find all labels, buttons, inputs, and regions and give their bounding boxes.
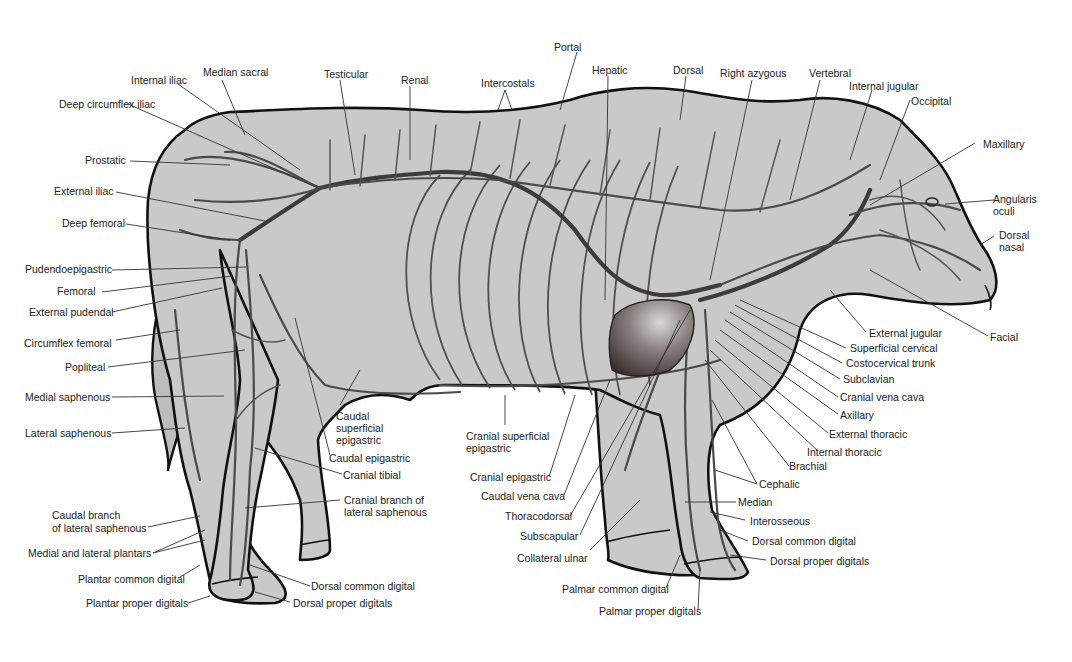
label-pudendoepigastric: Pudendoepigastric — [25, 263, 112, 276]
label-testicular: Testicular — [324, 68, 368, 81]
label-superficial-cervical: Superficial cervical — [850, 342, 938, 355]
label-median: Median — [738, 496, 772, 509]
label-axillary: Axillary — [840, 409, 874, 422]
label-dorsal-proper-digitals-fore: Dorsal proper digitals — [770, 555, 869, 568]
label-collateral-ulnar: Collateral ulnar — [517, 552, 588, 565]
label-costocervical-trunk: Costocervical trunk — [846, 357, 935, 370]
label-deep-circumflex-iliac: Deep circumflex iliac — [59, 98, 155, 111]
label-brachial: Brachial — [789, 460, 827, 473]
label-popliteal: Popliteal — [65, 361, 105, 374]
label-deep-femoral: Deep femoral — [62, 217, 125, 230]
label-dorsal-proper-digitals-hind: Dorsal proper digitals — [293, 597, 392, 610]
label-internal-jugular: Internal jugular — [849, 80, 918, 93]
label-femoral: Femoral — [57, 285, 96, 298]
label-angularis-oculi-2: oculi — [993, 205, 1015, 218]
label-cranial-vena-cava: Cranial vena cava — [840, 391, 924, 404]
label-cranial-tibial: Cranial tibial — [343, 469, 401, 482]
label-external-thoracic: External thoracic — [829, 428, 907, 441]
label-portal: Portal — [554, 41, 581, 54]
label-cranial-superficial-epigastric-1: Cranial superficial — [466, 430, 549, 443]
label-external-jugular: External jugular — [869, 327, 942, 340]
label-external-iliac: External iliac — [54, 185, 114, 198]
label-intercostals: Intercostals — [481, 77, 535, 90]
label-right-azygous: Right azygous — [720, 67, 787, 80]
label-median-sacral: Median sacral — [203, 66, 268, 79]
label-interosseous: Interosseous — [750, 515, 810, 528]
label-internal-thoracic: Internal thoracic — [807, 446, 882, 459]
label-cephalic: Cephalic — [759, 478, 800, 491]
label-dorsal-common-digital-fore: Dorsal common digital — [752, 535, 856, 548]
label-caudal-branch-lateral-saphenous-2: of lateral saphenous — [52, 522, 147, 535]
label-caudal-epigastric: Caudal epigastric — [329, 452, 410, 465]
label-renal: Renal — [401, 74, 428, 87]
label-dorsal-nasal-1: Dorsal — [999, 229, 1029, 242]
label-dorsal-common-digital-hind: Dorsal common digital — [311, 580, 415, 593]
label-palmar-proper-digitals: Palmar proper digitals — [599, 605, 701, 618]
label-circumflex-femoral: Circumflex femoral — [24, 337, 112, 350]
label-internal-iliac: Internal iliac — [131, 74, 187, 87]
label-lateral-saphenous: Lateral saphenous — [25, 427, 111, 440]
label-occipital: Occipital — [911, 95, 951, 108]
label-plantar-common-digital: Plantar common digital — [78, 573, 185, 586]
label-hepatic: Hepatic — [592, 64, 628, 77]
label-plantar-proper-digitals: Plantar proper digitals — [86, 597, 188, 610]
label-cranial-superficial-epigastric-2: epigastric — [466, 442, 511, 455]
label-dorsal: Dorsal — [673, 64, 703, 77]
label-angularis-oculi-1: Angularis — [993, 193, 1037, 206]
label-palmar-common-digital: Palmar common digital — [562, 583, 669, 596]
label-caudal-vena-cava: Caudal vena cava — [481, 490, 565, 503]
label-cranial-epigastric: Cranial epigastric — [470, 471, 551, 484]
label-medial-lateral-plantars: Medial and lateral plantars — [28, 547, 151, 560]
label-medial-saphenous: Medial saphenous — [25, 391, 110, 404]
label-external-pudendal: External pudendal — [29, 306, 114, 319]
label-subscapular: Subscapular — [520, 530, 578, 543]
label-caudal-superficial-epigastric-3: epigastric — [336, 434, 381, 447]
label-vertebral: Vertebral — [809, 67, 851, 80]
label-caudal-branch-lateral-saphenous-1: Caudal branch — [52, 509, 120, 522]
label-cranial-branch-lateral-saphenous-2: lateral saphenous — [344, 506, 427, 519]
label-caudal-superficial-epigastric-1: Caudal — [336, 410, 369, 423]
label-caudal-superficial-epigastric-2: superficial — [336, 422, 383, 435]
label-cranial-branch-lateral-saphenous-1: Cranial branch of — [344, 494, 424, 507]
label-facial: Facial — [990, 331, 1018, 344]
label-prostatic: Prostatic — [85, 154, 126, 167]
label-thoracodorsal: Thoracodorsal — [505, 510, 572, 523]
label-maxillary: Maxillary — [983, 138, 1024, 151]
label-dorsal-nasal-2: nasal — [999, 241, 1024, 254]
label-subclavian: Subclavian — [843, 373, 894, 386]
